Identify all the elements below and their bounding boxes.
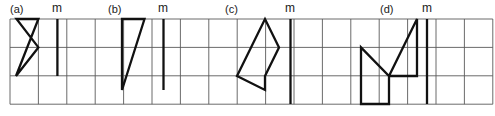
shapes <box>16 19 417 104</box>
mirror-label-c: m <box>285 2 295 14</box>
mirror-lines <box>57 19 427 104</box>
figure-svg <box>0 0 495 116</box>
panel-label-c: (c) <box>225 4 238 15</box>
panel-label-d: (d) <box>380 4 393 15</box>
shape-d <box>361 19 417 104</box>
mirror-label-b: m <box>158 2 168 14</box>
shape-c <box>237 19 279 90</box>
shape-b <box>122 19 145 90</box>
figure-container: (a) m (b) m (c) m (d) m <box>0 0 495 116</box>
grid-lines <box>10 19 493 104</box>
mirror-label-a: m <box>52 2 62 14</box>
panel-label-b: (b) <box>108 4 121 15</box>
mirror-label-d: m <box>422 2 432 14</box>
panel-label-a: (a) <box>10 4 23 15</box>
